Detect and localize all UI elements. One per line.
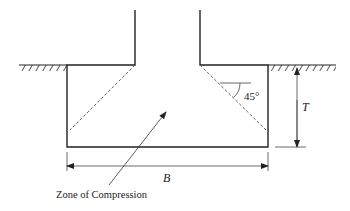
ground-hatch-right <box>268 65 336 71</box>
ground-hatch-left <box>19 65 67 71</box>
angle-label: 45° <box>244 90 259 102</box>
zone-pointer-arrow <box>109 112 166 185</box>
column-footing-outline <box>67 10 268 147</box>
depth-label: T <box>302 100 310 114</box>
width-label: B <box>163 171 171 185</box>
angle-arc <box>234 83 240 97</box>
footing-diagram: 45° T B Zone of Compression <box>0 0 350 211</box>
zone-label: Zone of Compression <box>56 189 148 200</box>
dashed-line-left <box>70 65 135 130</box>
